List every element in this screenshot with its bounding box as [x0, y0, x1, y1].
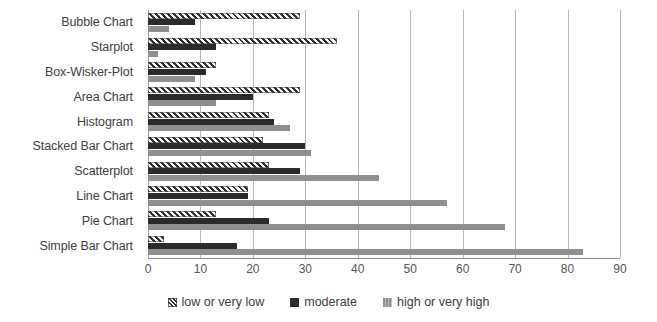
bar: [148, 218, 269, 224]
bar: [148, 175, 379, 181]
x-axis-line: [148, 258, 620, 259]
category-label: Box-Wisker-Plot: [0, 60, 140, 85]
bar: [148, 243, 237, 249]
bar-group: [148, 35, 620, 60]
category-label: Pie Chart: [0, 208, 140, 233]
category-axis-labels: Bubble ChartStarplotBox-Wisker-PlotArea …: [0, 10, 140, 258]
x-tick-label: 20: [246, 262, 259, 276]
bar: [148, 249, 583, 255]
bar: [148, 51, 158, 57]
bar: [148, 137, 263, 143]
legend-swatch-icon: [383, 298, 392, 307]
bar: [148, 76, 195, 82]
x-tick-label: 70: [508, 262, 521, 276]
bar: [148, 143, 305, 149]
x-tick-label: 40: [351, 262, 364, 276]
bar: [148, 224, 505, 230]
legend-label: high or very high: [397, 295, 489, 309]
category-label: Starplot: [0, 35, 140, 60]
bar-groups: [148, 10, 620, 258]
bar: [148, 186, 248, 192]
x-tick-label: 10: [194, 262, 207, 276]
bar: [148, 119, 274, 125]
bar: [148, 236, 164, 242]
legend-item: high or very high: [383, 295, 489, 309]
bar-group: [148, 84, 620, 109]
bar-group: [148, 184, 620, 209]
chart-legend: low or very lowmoderatehigh or very high: [0, 288, 657, 316]
bar: [148, 44, 216, 50]
category-label: Scatterplot: [0, 159, 140, 184]
bar-group: [148, 109, 620, 134]
bar: [148, 13, 300, 19]
bar-group: [148, 10, 620, 35]
category-label: Stacked Bar Chart: [0, 134, 140, 159]
x-tick-label: 0: [145, 262, 152, 276]
bar: [148, 112, 269, 118]
x-tick-label: 80: [561, 262, 574, 276]
bar-group: [148, 208, 620, 233]
gridline: [620, 10, 621, 258]
bar: [148, 125, 290, 131]
x-tick-label: 50: [404, 262, 417, 276]
legend-label: moderate: [304, 295, 357, 309]
bar-group: [148, 233, 620, 258]
x-tick-label: 30: [299, 262, 312, 276]
bar: [148, 162, 269, 168]
bar: [148, 38, 337, 44]
bar-group: [148, 159, 620, 184]
bar: [148, 150, 311, 156]
x-axis-tick-labels: 0102030405060708090: [148, 262, 620, 282]
plot-area: [148, 10, 620, 258]
bar: [148, 200, 447, 206]
bar: [148, 87, 300, 93]
bar: [148, 19, 195, 25]
bar: [148, 26, 169, 32]
bar: [148, 211, 216, 217]
x-tick-label: 90: [613, 262, 626, 276]
bar: [148, 168, 300, 174]
legend-item: moderate: [290, 295, 357, 309]
bar: [148, 100, 216, 106]
category-label: Histogram: [0, 109, 140, 134]
horizontal-grouped-bar-chart: Bubble ChartStarplotBox-Wisker-PlotArea …: [0, 0, 657, 322]
category-label: Line Chart: [0, 184, 140, 209]
bar: [148, 69, 206, 75]
legend-label: low or very low: [182, 295, 265, 309]
category-label: Simple Bar Chart: [0, 233, 140, 258]
bar-group: [148, 134, 620, 159]
bar: [148, 94, 253, 100]
legend-swatch-icon: [290, 298, 299, 307]
x-tick-label: 60: [456, 262, 469, 276]
bar: [148, 193, 248, 199]
legend-item: low or very low: [168, 295, 265, 309]
bar-group: [148, 60, 620, 85]
bar: [148, 62, 216, 68]
category-label: Bubble Chart: [0, 10, 140, 35]
category-label: Area Chart: [0, 84, 140, 109]
plot-wrapper: Bubble ChartStarplotBox-Wisker-PlotArea …: [0, 0, 657, 285]
legend-swatch-icon: [168, 298, 177, 307]
